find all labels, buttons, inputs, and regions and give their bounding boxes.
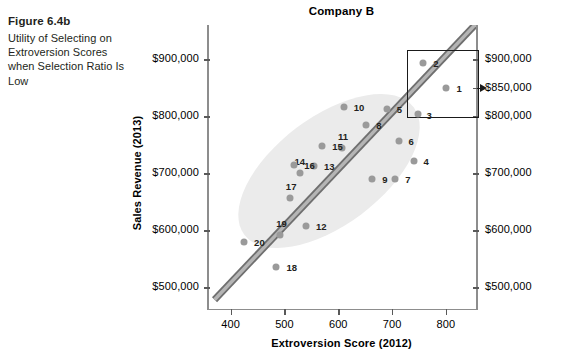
figure-number: Figure 6.4b <box>8 14 130 29</box>
data-point-label: 18 <box>286 262 297 273</box>
x-tick-label: 400 <box>221 318 240 330</box>
x-axis <box>207 309 478 311</box>
data-point[interactable] <box>319 142 326 149</box>
data-point[interactable] <box>383 106 390 113</box>
data-point-label: 17 <box>286 180 297 191</box>
figure-caption: Figure 6.4b Utility of Selecting on Extr… <box>8 14 130 88</box>
data-point[interactable] <box>273 264 280 271</box>
y-tick-left <box>204 230 210 231</box>
data-point-label: 1 <box>456 82 461 93</box>
y-axis-left <box>207 25 209 310</box>
y-tick-label-right: $600,000 <box>485 223 532 235</box>
x-axis-title: Extroversion Score (2012) <box>207 337 476 349</box>
y-tick-label-left: $700,000 <box>152 166 199 178</box>
data-point-label: 3 <box>426 109 431 120</box>
figure-root: Figure 6.4b Utility of Selecting on Extr… <box>0 0 566 357</box>
data-point-label: 7 <box>405 173 410 184</box>
y-tick-label-right: $800,000 <box>485 109 532 121</box>
data-point[interactable] <box>277 231 284 238</box>
data-point-label: 15 <box>332 140 343 151</box>
y-tick-label-left: $600,000 <box>152 223 199 235</box>
y-tick-label-left: $800,000 <box>152 109 199 121</box>
selection-box[interactable] <box>407 50 478 118</box>
figure-description: Utility of Selecting on Extroversion Sco… <box>8 31 130 88</box>
scatter-chart: Company B $500,000$600,000$700,000$800,0… <box>207 25 476 310</box>
data-point-label: 12 <box>316 221 327 232</box>
data-point-label: 16 <box>304 159 315 170</box>
data-point-label: 9 <box>382 173 387 184</box>
annotation-arrow-head <box>480 84 487 92</box>
data-point[interactable] <box>340 104 347 111</box>
y-axis-title: Sales Revenue (2013) <box>131 0 143 357</box>
y-tick-label-right: $900,000 <box>485 52 532 64</box>
data-point-label: 10 <box>354 102 365 113</box>
data-point-label: 4 <box>424 155 429 166</box>
data-point[interactable] <box>286 194 293 201</box>
data-point-label: 20 <box>254 236 265 247</box>
data-point-label: 19 <box>276 217 287 228</box>
data-point[interactable] <box>363 121 370 128</box>
y-tick-label-right: $850,000 <box>485 81 532 93</box>
data-point[interactable] <box>420 59 427 66</box>
data-point-label: 8 <box>376 119 381 130</box>
x-tick <box>231 309 232 315</box>
data-point[interactable] <box>369 175 376 182</box>
y-tick-right <box>473 173 479 174</box>
data-point[interactable] <box>443 84 450 91</box>
data-point[interactable] <box>291 161 298 168</box>
data-point[interactable] <box>302 223 309 230</box>
data-point-label: 2 <box>433 57 438 68</box>
data-point[interactable] <box>241 238 248 245</box>
x-tick <box>392 309 393 315</box>
y-tick-left <box>204 287 210 288</box>
y-tick-label-left: $900,000 <box>152 52 199 64</box>
x-tick-label: 700 <box>383 318 402 330</box>
chart-title: Company B <box>207 5 476 17</box>
x-tick <box>446 309 447 315</box>
data-point-label: 13 <box>324 161 335 172</box>
data-point[interactable] <box>392 175 399 182</box>
data-point-label: 6 <box>409 136 414 147</box>
y-tick-label-right: $500,000 <box>485 280 532 292</box>
data-point-label: 5 <box>397 104 402 115</box>
plot-area: $500,000$600,000$700,000$800,000$900,000… <box>207 25 476 310</box>
data-point[interactable] <box>410 157 417 164</box>
y-tick-right <box>473 287 479 288</box>
x-tick-label: 500 <box>275 318 294 330</box>
x-tick-label: 600 <box>329 318 348 330</box>
x-tick <box>338 309 339 315</box>
y-tick-right <box>473 230 479 231</box>
y-tick-label-left: $500,000 <box>152 280 199 292</box>
y-tick-left <box>204 173 210 174</box>
x-tick-label: 800 <box>437 318 456 330</box>
data-point[interactable] <box>296 170 303 177</box>
y-tick-left <box>204 59 210 60</box>
x-tick <box>284 309 285 315</box>
y-tick-left <box>204 116 210 117</box>
y-tick-label-right: $700,000 <box>485 166 532 178</box>
data-point[interactable] <box>395 138 402 145</box>
data-point[interactable] <box>415 110 422 117</box>
